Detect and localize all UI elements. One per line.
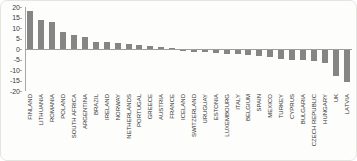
- x-label-turkey: TURKEY: [277, 94, 285, 118]
- bar-italy: [235, 50, 241, 54]
- y-tick-label-10: 10: [12, 25, 20, 32]
- bar-mexico: [267, 50, 273, 57]
- bar-argentina: [82, 37, 88, 49]
- x-label-bulgaria: BULGARIA: [299, 94, 307, 124]
- bar-cyprus: [289, 50, 295, 60]
- x-label-iceland: ICELAND: [179, 94, 187, 120]
- x-label-ireland: IRELAND: [103, 94, 111, 120]
- bar-spain: [256, 50, 262, 56]
- bar-netherlands: [126, 44, 132, 49]
- y-tick-mark: [20, 70, 22, 71]
- x-label-netherlands: NETHERLANDS: [125, 94, 133, 139]
- x-label-greece: GREECE: [146, 94, 154, 119]
- y-tick-mark: [20, 60, 22, 61]
- bar-luxembourg: [224, 50, 230, 54]
- x-label-estonia: ESTONIA: [212, 94, 220, 120]
- bar-czech-republic: [311, 50, 317, 61]
- y-tick-label-20: 20: [12, 4, 20, 11]
- bar-turkey: [278, 50, 284, 59]
- bar-greece: [147, 46, 153, 49]
- x-label-romania: ROMANIA: [48, 94, 56, 122]
- bar-south-africa: [71, 35, 77, 49]
- y-tick-mark: [20, 39, 22, 40]
- x-label-lithuania: LITHUANIA: [37, 94, 45, 125]
- x-label-argentina: ARGENTINA: [81, 94, 89, 129]
- y-axis: 20151050-5-10-15-20: [1, 7, 22, 91]
- bar-france: [169, 48, 175, 49]
- x-label-spain: SPAIN: [255, 94, 263, 112]
- bar-latvia: [344, 50, 350, 82]
- x-label-france: FRANCE: [168, 94, 176, 119]
- plot-area: [25, 7, 352, 91]
- bar-iceland: [180, 50, 186, 51]
- y-tick-mark: [20, 49, 22, 50]
- bar-lithuania: [38, 20, 44, 49]
- bar-hungary: [322, 50, 328, 63]
- bar-portugal: [136, 45, 142, 49]
- x-label-brazil: BRAZIL: [92, 94, 100, 115]
- y-tick-mark: [20, 28, 22, 29]
- x-label-belgium: BELGIUM: [244, 94, 252, 121]
- bar-ireland: [104, 42, 110, 49]
- x-label-south-africa: SOUTH AFRICA: [70, 94, 78, 138]
- bar-switzerland: [191, 50, 197, 52]
- x-label-uruguay: URUGUAY: [201, 94, 209, 124]
- bar-uruguay: [202, 50, 208, 52]
- bar-belgium: [245, 50, 251, 55]
- x-label-poland: POLAND: [59, 94, 67, 119]
- y-tick-label--20: -20: [10, 88, 20, 95]
- bar-austria: [158, 47, 164, 49]
- x-label-latvia: LATVIA: [343, 94, 351, 114]
- x-label-hungary: HUNGARY: [321, 94, 329, 124]
- x-label-italy: ITALY: [234, 94, 242, 110]
- y-tick-mark: [20, 81, 22, 82]
- x-label-norway: NORWAY: [114, 94, 122, 120]
- bar-finland: [27, 11, 33, 49]
- x-label-portugal: PORTUGAL: [135, 94, 143, 127]
- y-tick-label-15: 15: [12, 14, 20, 21]
- y-tick-mark: [20, 18, 22, 19]
- bar-romania: [49, 22, 55, 49]
- y-tick-mark: [20, 7, 22, 8]
- bar-poland: [60, 32, 66, 49]
- x-label-austria: AUSTRIA: [157, 94, 165, 120]
- x-label-mexico: MEXICO: [266, 94, 274, 118]
- x-axis-labels: FINLANDLITHUANIAROMANIAPOLANDSOUTH AFRIC…: [25, 94, 352, 160]
- bar-uk: [333, 50, 339, 76]
- x-label-finland: FINLAND: [26, 94, 34, 120]
- y-tick-label--10: -10: [10, 67, 20, 74]
- bar-norway: [115, 43, 121, 49]
- bar-brazil: [93, 42, 99, 49]
- x-label-cyprus: CYPRUS: [288, 94, 296, 119]
- bar-estonia: [213, 50, 219, 53]
- x-label-switzerland: SWITZERLAND: [190, 94, 198, 137]
- bar-chart-figure: 20151050-5-10-15-20 FINLANDLITHUANIAROMA…: [0, 0, 357, 161]
- x-label-czech-republic: CZECH REPUBLIC: [310, 94, 318, 146]
- bar-bulgaria: [300, 50, 306, 60]
- x-label-uk: UK: [332, 94, 340, 102]
- x-label-luxembourg: LUXEMBOURG: [223, 94, 231, 137]
- y-tick-label--15: -15: [10, 77, 20, 84]
- y-tick-mark: [20, 91, 22, 92]
